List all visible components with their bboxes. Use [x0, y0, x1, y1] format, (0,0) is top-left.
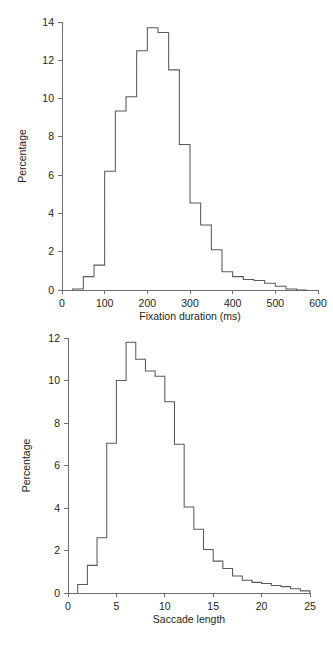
y-axis-title: Percentage: [16, 129, 28, 183]
x-tick-label: 0: [65, 600, 71, 612]
x-tick-label: 25: [304, 600, 316, 612]
y-tick-label: 12: [42, 54, 54, 66]
x-tick-label: 200: [139, 297, 157, 309]
x-tick-label: 400: [224, 297, 242, 309]
x-tick-label: 20: [256, 600, 268, 612]
x-tick-group: 0510152025: [65, 593, 316, 612]
y-tick-label: 8: [48, 130, 54, 142]
histogram-outline: [78, 342, 310, 593]
y-tick-label: 10: [42, 92, 54, 104]
y-tick-label: 2: [54, 544, 60, 556]
y-tick-label: 2: [48, 245, 54, 257]
y-tick-label: 6: [48, 169, 54, 181]
x-tick-label: 500: [267, 297, 285, 309]
x-tick-label: 600: [309, 297, 327, 309]
y-tick-label: 14: [42, 16, 54, 28]
histogram-outline: [73, 28, 308, 290]
y-tick-label: 0: [48, 284, 54, 296]
y-tick-label: 10: [48, 374, 60, 386]
figure-page: 024681012140100200300400500600Fixation d…: [0, 0, 333, 650]
x-axis-title: Saccade length: [153, 613, 226, 625]
x-tick-label: 5: [113, 600, 119, 612]
y-tick-label: 6: [54, 459, 60, 471]
y-tick-group: 02468101214: [42, 16, 62, 296]
y-tick-label: 8: [54, 417, 60, 429]
chart-panel-fixation-duration: 024681012140100200300400500600Fixation d…: [0, 0, 333, 325]
x-tick-label: 15: [207, 600, 219, 612]
x-tick-label: 300: [181, 297, 199, 309]
y-tick-label: 4: [48, 207, 54, 219]
chart-panel-saccade-length: 0246810120510152025Saccade lengthPercent…: [0, 325, 333, 650]
x-tick-group: 0100200300400500600: [59, 290, 327, 309]
y-tick-label: 12: [48, 332, 60, 344]
saccade-length-chart-svg: 0246810120510152025Saccade lengthPercent…: [0, 325, 333, 650]
y-tick-group: 024681012: [48, 332, 68, 599]
fixation-duration-chart-svg: 024681012140100200300400500600Fixation d…: [0, 0, 333, 325]
y-tick-label: 0: [54, 587, 60, 599]
x-axis-title: Fixation duration (ms): [139, 310, 241, 322]
x-tick-label: 100: [96, 297, 114, 309]
y-axis-title: Percentage: [20, 438, 32, 492]
axes-group: [68, 338, 310, 593]
y-tick-label: 4: [54, 502, 60, 514]
x-tick-label: 10: [159, 600, 171, 612]
x-tick-label: 0: [59, 297, 65, 309]
